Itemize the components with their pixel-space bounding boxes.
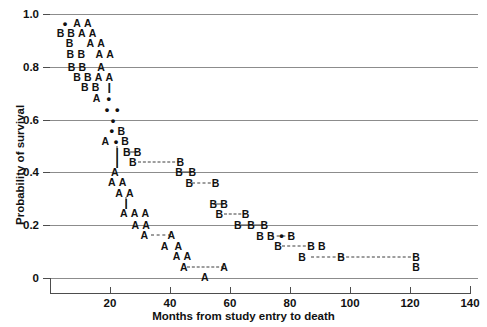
data-mark-B-72: B [318,241,326,252]
data-mark-B-56: B [242,209,250,220]
data-mark-B-21: B [81,82,89,93]
x-tick-40 [170,287,171,293]
x-tick-label-80: 80 [284,297,297,309]
data-mark-B-41: B [175,167,183,178]
x-tick-label-120: 120 [400,297,419,309]
data-mark-B-22: B [92,82,100,93]
data-mark-B-46: B [212,178,220,189]
curve-segment-h-6 [341,256,416,257]
data-mark-A-68: A [161,241,169,252]
data-mark-A-31: A [101,136,109,147]
y-tick-0.6 [43,120,50,121]
data-mark-A-52: A [120,208,128,219]
data-mark-B-17: B [73,72,81,83]
y-tick-1 [43,14,50,15]
x-tick-60 [230,287,231,293]
data-mark-B-10: B [67,48,75,59]
x-tick-label-40: 40 [164,297,177,309]
curve-segment-h-0 [138,161,181,162]
x-axis-line [50,293,470,294]
data-mark-A-13: A [106,48,114,59]
plot-area: 00.20.40.60.81.020406080100120140•AABBAA… [0,0,487,327]
data-mark-A-53: A [131,208,139,219]
y-tick-label-0.8: 0.8 [0,61,39,73]
data-mark-A-5: A [78,28,86,39]
data-mark-B-55: B [215,209,223,220]
curve-segment-h-8 [187,266,224,267]
data-mark-B-11: B [77,48,85,59]
y-axis-label: Probability of survival [14,105,26,225]
y-tick-label-1: 1.0 [0,8,39,20]
x-tick-80 [290,287,291,293]
data-mark-A-62: A [140,230,148,241]
data-mark-A-78: A [180,262,188,273]
gridline-y-0 [50,278,478,279]
x-tick-label-20: 20 [104,297,117,309]
data-mark-B-80: B [412,262,420,273]
data-mark-B-59: B [234,220,242,231]
x-tick-20 [110,287,111,293]
x-tick-label-100: 100 [340,297,359,309]
x-tick-label-140: 140 [460,297,479,309]
data-mark-A-8: A [86,38,94,49]
data-mark-B-3: B [57,28,65,39]
data-mark-A-24: A [93,93,101,104]
data-mark-A-81: A [201,271,209,282]
x-tick-140 [470,287,471,293]
y-tick-0.4 [43,172,50,173]
y-tick-0 [43,278,50,279]
data-mark-A-47: A [115,188,123,199]
survival-chart-figure: 00.20.40.60.81.020406080100120140•AABBAA… [0,0,487,327]
x-tick-120 [410,287,411,293]
y-tick-0.8 [43,67,50,68]
data-mark-A-12: A [95,48,103,59]
data-mark-B-76: B [337,252,345,263]
gridline-y-1 [50,14,478,15]
x-tick-label-60: 60 [224,297,237,309]
data-mark-A-79: A [220,262,228,273]
gridline-y-0.8 [50,67,478,68]
x-tick-100 [350,287,351,293]
y-tick-label-0: 0 [0,272,39,284]
data-mark-B-71: B [307,241,315,252]
data-mark-B-70: B [274,241,282,252]
data-mark-B-60: B [247,220,255,231]
data-mark-B-64: B [256,231,264,242]
data-mark-A-54: A [142,208,150,219]
data-mark-B-67: B [287,231,295,242]
data-mark-B-38: B [129,157,137,168]
x-axis-left-stub [50,278,51,293]
data-mark-dot-26: • [105,103,110,116]
x-axis-label: Months from study entry to death [0,310,487,322]
data-mark-B-45: B [185,178,193,189]
data-mark-B-75: B [298,252,306,263]
data-mark-A-57: A [131,220,139,231]
y-tick-0.2 [43,225,50,226]
